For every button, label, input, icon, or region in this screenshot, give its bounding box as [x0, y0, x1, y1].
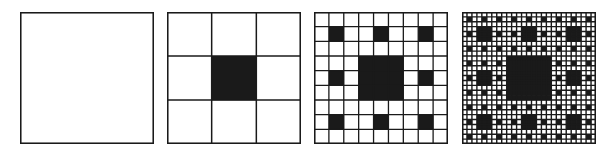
carpet-panel-iteration-0	[20, 12, 154, 144]
carpet-panel-iteration-1	[167, 12, 301, 144]
carpet-panel-iteration-2	[314, 12, 448, 144]
carpet-panel-iteration-3	[462, 12, 596, 144]
